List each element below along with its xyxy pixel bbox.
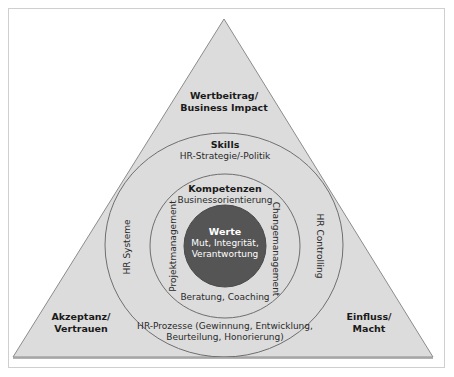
kompetenzen-top-text: Businessorientierung	[177, 195, 272, 206]
kompetenzen-left-text: Projektmanagement	[168, 200, 179, 291]
skills-title: Skills	[211, 139, 240, 151]
label-akzeptanz: Akzeptanz/	[51, 311, 110, 323]
skills-top-text: HR-Strategie/-Politik	[180, 151, 270, 162]
core-line1: Mut, Integrität,	[191, 238, 259, 249]
label-macht: Macht	[346, 323, 391, 335]
core-title: Werte	[191, 226, 259, 238]
triangle-left-label: Akzeptanz/ Vertrauen	[51, 311, 110, 335]
kompetenzen-bottom-text: Beratung, Coaching	[180, 292, 269, 303]
skills-left-text: HR Systeme	[122, 220, 133, 275]
label-business-impact: Business Impact	[180, 102, 268, 114]
core-label: Werte Mut, Integrität, Verantwortung	[191, 226, 259, 260]
label-vertrauen: Vertrauen	[51, 323, 110, 335]
skills-right-text: HR Controlling	[313, 214, 324, 279]
label-einfluss: Einfluss/	[346, 311, 391, 323]
skills-bottom-text: HR-Prozesse (Gewinnung, Entwicklung, Beu…	[137, 321, 313, 344]
skills-bottom-line1: HR-Prozesse (Gewinnung, Entwicklung,	[137, 321, 313, 332]
label-wertbeitrag: Wertbeitrag/	[180, 90, 268, 102]
core-line2: Verantwortung	[191, 249, 259, 260]
triangle-top-label: Wertbeitrag/ Business Impact	[180, 90, 268, 114]
kompetenzen-title: Kompetenzen	[188, 183, 261, 195]
triangle-right-label: Einfluss/ Macht	[346, 311, 391, 335]
skills-bottom-line2: Beurteilung, Honorierung)	[137, 332, 313, 343]
kompetenzen-right-text: Changemanagement	[269, 202, 280, 297]
